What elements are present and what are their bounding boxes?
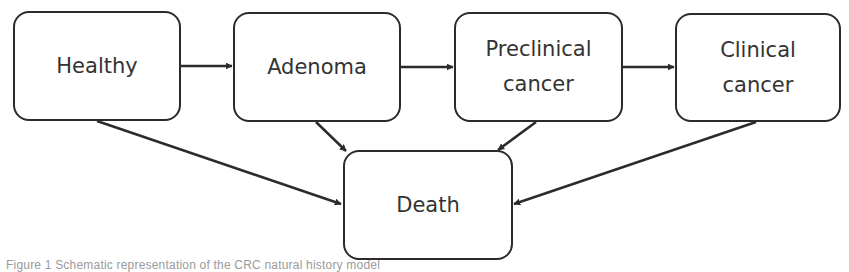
node-label: Adenoma xyxy=(267,50,367,85)
figure-caption: Figure 1 Schematic representation of the… xyxy=(6,258,380,272)
node-label: Death xyxy=(396,188,460,223)
state-node-death: Death xyxy=(343,150,513,260)
node-label-line-2: cancer xyxy=(723,68,794,103)
node-label: Healthy xyxy=(56,49,137,84)
arrow-adenoma-to-death xyxy=(316,122,346,151)
state-node-clinical-cancer: Clinical cancer xyxy=(675,13,841,122)
state-node-preclinical-cancer: Preclinical cancer xyxy=(454,12,623,122)
state-node-adenoma: Adenoma xyxy=(233,12,401,122)
state-node-healthy: Healthy xyxy=(13,11,181,121)
node-label-line-2: cancer xyxy=(503,67,574,102)
arrow-preclinical-to-death xyxy=(498,122,536,150)
node-label-line-1: Preclinical xyxy=(486,32,592,67)
node-label-line-1: Clinical xyxy=(720,33,796,68)
arrow-healthy-to-death xyxy=(97,121,341,204)
arrow-clinical-to-death xyxy=(514,122,756,204)
